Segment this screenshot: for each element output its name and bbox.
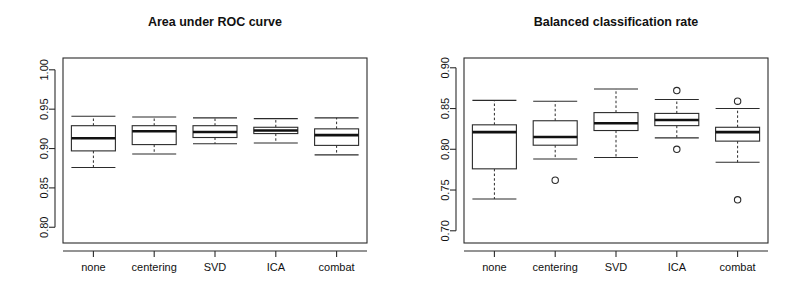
- outlier-point: [734, 98, 740, 104]
- y-axis-tick-label: 0.85: [38, 177, 50, 198]
- box-iqr: [533, 121, 577, 145]
- boxplot-centering[interactable]: [533, 101, 577, 183]
- outlier-point: [674, 146, 680, 152]
- y-axis-tick-label: 1.00: [38, 59, 50, 80]
- x-axis-category-label-centering: centering: [132, 261, 177, 273]
- boxplot-combat[interactable]: [716, 98, 760, 203]
- boxplot-SVD[interactable]: [594, 89, 638, 157]
- outlier-point: [734, 197, 740, 203]
- boxplot-figure: Area under ROC curve0.800.850.900.951.00…: [0, 0, 802, 295]
- x-axis-category-label-ICA: ICA: [267, 261, 286, 273]
- y-axis-tick-label: 0.70: [439, 220, 451, 241]
- x-axis-category-label-SVD: SVD: [605, 261, 628, 273]
- y-axis-tick-label: 0.80: [439, 139, 451, 160]
- x-axis-category-label-combat: combat: [319, 261, 355, 273]
- boxplot-none[interactable]: [472, 100, 516, 199]
- box-iqr: [132, 126, 176, 145]
- boxplot-ICA[interactable]: [254, 119, 298, 143]
- x-axis-category-label-none: none: [482, 261, 506, 273]
- y-axis-tick-label: 0.75: [439, 179, 451, 200]
- outlier-point: [674, 87, 680, 93]
- outlier-point: [552, 177, 558, 183]
- y-axis-tick-label: 0.90: [439, 57, 451, 78]
- x-axis-category-label-combat: combat: [720, 261, 756, 273]
- y-axis-tick-label: 0.90: [38, 138, 50, 159]
- boxplot-combat[interactable]: [315, 118, 359, 155]
- panel-balanced-classification-rate: Balanced classification rate0.700.750.80…: [401, 0, 802, 295]
- box-iqr: [594, 113, 638, 131]
- boxplot-none[interactable]: [71, 116, 115, 167]
- x-axis-category-label-ICA: ICA: [668, 261, 687, 273]
- panel-title: Balanced classification rate: [534, 15, 699, 29]
- x-axis-category-label-centering: centering: [533, 261, 578, 273]
- y-axis-tick-label: 0.85: [439, 98, 451, 119]
- panel-title: Area under ROC curve: [148, 15, 282, 29]
- boxplot-ICA[interactable]: [655, 87, 699, 152]
- panel-left-canvas: Area under ROC curve0.800.850.900.951.00…: [0, 0, 401, 295]
- y-axis-tick-label: 0.95: [38, 98, 50, 119]
- box-iqr: [716, 127, 760, 141]
- panel-area-under-roc-curve: Area under ROC curve0.800.850.900.951.00…: [0, 0, 401, 295]
- box-iqr: [315, 129, 359, 146]
- boxplot-centering[interactable]: [132, 117, 176, 154]
- x-axis-category-label-SVD: SVD: [204, 261, 227, 273]
- boxplot-SVD[interactable]: [193, 118, 237, 144]
- panel-right-canvas: Balanced classification rate0.700.750.80…: [401, 0, 802, 295]
- x-axis-category-label-none: none: [81, 261, 105, 273]
- y-axis-tick-label: 0.80: [38, 217, 50, 238]
